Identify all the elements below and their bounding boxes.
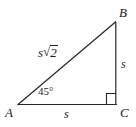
side-label-hypotenuse: s√2 <box>38 45 58 59</box>
side-label-right: s <box>121 58 126 70</box>
vertex-label-a: A <box>5 106 13 119</box>
radical-sign-icon: √ <box>43 45 50 58</box>
vertex-label-b: B <box>119 6 127 19</box>
right-angle-marker <box>107 94 117 105</box>
radicand-value: 2 <box>50 45 58 59</box>
hypotenuse-line <box>18 22 116 105</box>
triangle-diagram: A B C s s s√2 45° <box>0 0 136 127</box>
angle-label-a: 45° <box>38 86 53 97</box>
side-label-base: s <box>64 108 69 120</box>
vertex-label-c: C <box>120 106 129 119</box>
